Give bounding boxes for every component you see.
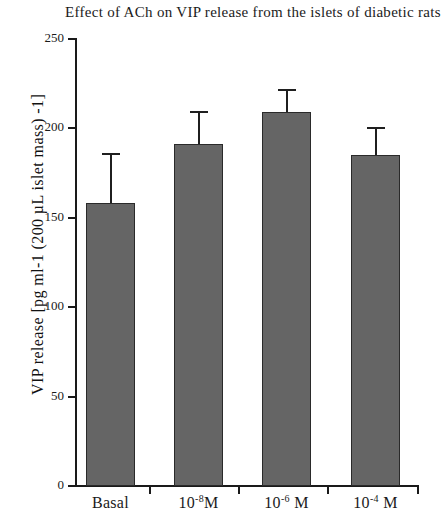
y-tick-label: 0 bbox=[18, 477, 64, 493]
y-tick bbox=[68, 306, 75, 308]
error-bar-cap bbox=[102, 153, 120, 155]
bar bbox=[174, 144, 223, 486]
x-tick bbox=[327, 487, 329, 494]
x-tick bbox=[238, 487, 240, 494]
bar bbox=[86, 203, 135, 486]
y-tick bbox=[68, 38, 75, 40]
y-tick bbox=[68, 217, 75, 219]
y-axis-label: VIP release [pg ml-1 (200 µL islet mass)… bbox=[29, 95, 47, 395]
x-tick bbox=[417, 487, 419, 494]
y-tick-label: 150 bbox=[18, 209, 64, 225]
y-tick-label: 100 bbox=[18, 298, 64, 314]
y-tick-label: 50 bbox=[18, 388, 64, 404]
error-bar-stem bbox=[375, 127, 377, 156]
error-bar-stem bbox=[198, 111, 200, 145]
x-tick-label: 10-4 M bbox=[321, 494, 431, 512]
bar bbox=[351, 155, 400, 486]
bar bbox=[262, 112, 311, 486]
y-tick bbox=[68, 396, 75, 398]
error-bar-cap bbox=[278, 89, 296, 91]
error-bar-stem bbox=[110, 153, 112, 203]
chart-title: Effect of ACh on VIP release from the is… bbox=[62, 2, 444, 23]
y-tick-label: 200 bbox=[18, 119, 64, 135]
error-bar-stem bbox=[286, 89, 288, 112]
chart-figure: Effect of ACh on VIP release from the is… bbox=[0, 0, 448, 518]
x-tick bbox=[149, 487, 151, 494]
y-tick-label: 250 bbox=[18, 30, 64, 46]
error-bar-cap bbox=[190, 111, 208, 113]
y-axis-line bbox=[75, 38, 77, 487]
error-bar-cap bbox=[367, 127, 385, 129]
y-tick bbox=[68, 127, 75, 129]
y-tick bbox=[68, 485, 75, 487]
